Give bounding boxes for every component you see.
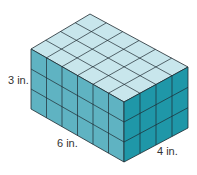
height-label: 3 in.: [8, 74, 29, 86]
prism-diagram: 3 in. 6 in. 4 in.: [0, 0, 197, 175]
length-label: 6 in.: [57, 137, 78, 149]
width-label: 4 in.: [157, 145, 178, 157]
